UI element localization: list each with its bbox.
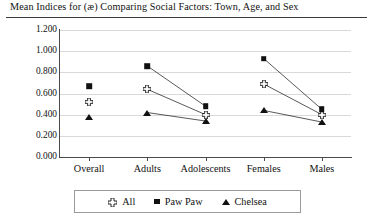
x-tick-mark <box>147 157 148 161</box>
y-tick-label: 0.400 <box>13 110 57 119</box>
chart-legend: AllPaw PawChelsea <box>74 190 301 213</box>
x-tick-mark <box>206 157 207 161</box>
legend-item: Paw Paw <box>154 196 202 207</box>
cross-marker-icon <box>108 193 117 211</box>
legend-label: All <box>122 196 135 207</box>
y-axis-line <box>59 29 60 158</box>
x-tick-mark <box>89 157 90 161</box>
data-point-marker <box>260 107 268 113</box>
gridline <box>60 136 351 137</box>
chart-title: Mean Indices for (æ) Comparing Social Fa… <box>10 1 365 12</box>
data-point-marker <box>85 114 93 120</box>
gridline <box>60 30 351 31</box>
x-tick-label: Males <box>277 163 367 175</box>
legend-label: Chelsea <box>235 196 267 207</box>
data-point-marker <box>143 85 151 93</box>
title-divider <box>6 17 367 18</box>
y-tick-label: 0.200 <box>13 131 57 140</box>
y-tick-label: 0.600 <box>13 89 57 98</box>
data-point-marker <box>318 119 326 125</box>
gridline <box>60 94 351 95</box>
data-point-marker <box>202 118 210 124</box>
data-point-marker <box>261 56 267 62</box>
plot-area <box>60 30 351 157</box>
legend-item: All <box>108 193 135 211</box>
y-tick-label: 0.800 <box>13 67 57 76</box>
legend-item: Chelsea <box>222 196 267 207</box>
data-point-marker <box>143 110 151 116</box>
data-point-marker <box>319 107 325 113</box>
chart-figure: Mean Indices for (æ) Comparing Social Fa… <box>0 0 373 217</box>
data-point-marker <box>86 83 92 89</box>
y-axis-ticks: 0.0000.2000.4000.6000.8001.0001.200 <box>0 30 57 157</box>
gridline <box>60 51 351 52</box>
x-tick-mark <box>322 157 323 161</box>
square-marker-icon <box>154 199 160 205</box>
x-tick-mark <box>264 157 265 161</box>
gridline <box>60 72 351 73</box>
y-tick-label: 1.200 <box>13 25 57 34</box>
triangle-marker-icon <box>222 199 230 205</box>
data-point-marker <box>85 98 93 106</box>
y-tick-label: 1.000 <box>13 46 57 55</box>
legend-label: Paw Paw <box>165 196 203 207</box>
data-point-marker <box>203 103 209 109</box>
data-point-marker <box>260 80 268 88</box>
data-point-marker <box>145 63 151 69</box>
y-tick-label: 0.000 <box>13 152 57 161</box>
